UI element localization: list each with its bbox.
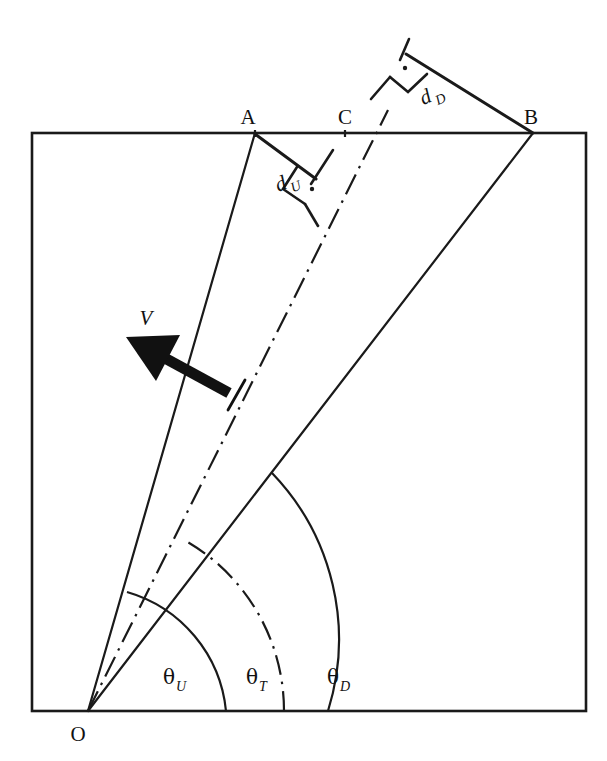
label-theta-d-main: θ: [327, 665, 339, 689]
label-theta-u-main: θ: [163, 665, 175, 689]
label-theta-t-main: θ: [246, 665, 258, 689]
right-angle-dot-dd: [403, 66, 407, 70]
label-distance-dd-sub: D: [432, 90, 448, 108]
distance-dd-tick: [400, 39, 409, 60]
distance-du-segment: [255, 134, 316, 179]
label-theta-t: θ T: [246, 665, 268, 694]
label-theta-u-sub: U: [176, 679, 187, 694]
label-distance-dd: d D: [415, 78, 448, 113]
label-distance-dd-main: d: [415, 83, 435, 109]
right-angle-stub-du: [305, 204, 318, 226]
angle-arc-theta-t: [186, 541, 284, 711]
geometry-diagram: A C B O V d U d D θ U θ T θ D: [0, 0, 607, 761]
label-velocity: V: [140, 306, 155, 330]
velocity-arrow: [126, 335, 245, 410]
label-theta-t-sub: T: [259, 679, 268, 694]
velocity-arrow-shaft: [161, 356, 229, 393]
right-angle-stub-dd: [371, 77, 390, 99]
label-theta-d-sub: D: [339, 679, 350, 694]
label-point-c: C: [338, 105, 352, 129]
label-theta-d: θ D: [327, 665, 350, 694]
ray-ob: [88, 133, 533, 711]
ray-oa: [88, 133, 255, 711]
figure-root: A C B O V d U d D θ U θ T θ D: [0, 0, 607, 761]
label-point-o: O: [70, 722, 85, 746]
label-theta-u: θ U: [163, 665, 187, 694]
right-angle-dot-du: [310, 187, 314, 191]
velocity-arrow-tail-cap: [228, 380, 245, 410]
label-point-b: B: [524, 105, 538, 129]
label-point-a: A: [240, 105, 256, 129]
distance-du-tick: [311, 150, 333, 184]
centerline-oc: [88, 110, 388, 711]
boundary-rectangle: [32, 133, 586, 711]
